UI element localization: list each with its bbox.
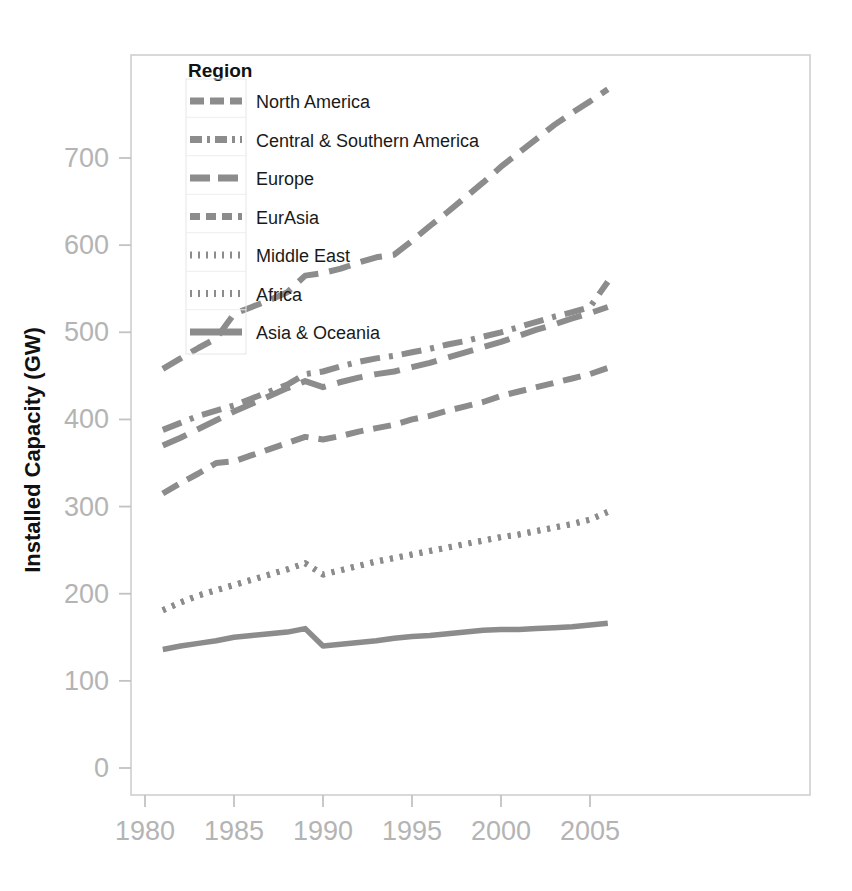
legend-item-central-southern-america[interactable]: Central & Southern America xyxy=(186,131,480,156)
y-tick-label: 500 xyxy=(64,317,109,347)
y-axis: 0100200300400500600700 xyxy=(64,143,131,783)
x-tick-label: 1995 xyxy=(382,816,442,846)
x-axis: 198019851990199520002005 xyxy=(115,795,620,846)
legend-label-central-southern-america: Central & Southern America xyxy=(256,131,480,151)
legend-item-eurasia[interactable]: EurAsia xyxy=(186,208,320,233)
y-tick-label: 600 xyxy=(64,230,109,260)
plot-frame xyxy=(131,55,810,795)
y-tick-label: 100 xyxy=(64,666,109,696)
x-tick-label: 1985 xyxy=(204,816,264,846)
x-tick-label: 2005 xyxy=(560,816,620,846)
series-line-middle-east xyxy=(163,512,608,611)
x-tick-label: 2000 xyxy=(471,816,531,846)
y-tick-label: 400 xyxy=(64,404,109,434)
x-tick-label: 1990 xyxy=(293,816,353,846)
line-chart: 0100200300400500600700 19801985199019952… xyxy=(0,0,852,891)
legend-item-europe[interactable]: Europe xyxy=(186,169,314,194)
legend-label-north-america: North America xyxy=(256,92,371,112)
series-line-africa xyxy=(163,512,608,611)
chart-figure: 0100200300400500600700 19801985199019952… xyxy=(0,0,852,891)
legend-label-asia-oceania: Asia & Oceania xyxy=(256,323,381,343)
y-axis-title: Installed Capacity (GW) xyxy=(20,327,45,573)
y-tick-label: 700 xyxy=(64,143,109,173)
y-tick-label: 200 xyxy=(64,579,109,609)
data-series-group xyxy=(163,89,608,649)
legend-label-europe: Europe xyxy=(256,169,314,189)
legend-items: North AmericaCentral & Southern AmericaE… xyxy=(186,79,480,354)
legend-label-africa: Africa xyxy=(256,285,303,305)
legend-title: Region xyxy=(188,60,252,81)
legend-item-middle-east[interactable]: Middle East xyxy=(186,246,350,271)
legend-item-north-america[interactable]: North America xyxy=(186,92,371,117)
legend-label-eurasia: EurAsia xyxy=(256,208,320,228)
series-line-asia-oceania xyxy=(163,623,608,649)
y-tick-label: 0 xyxy=(94,753,109,783)
series-line-eurasia xyxy=(163,368,608,494)
series-line-central-southern-america xyxy=(163,282,608,430)
legend-item-africa[interactable]: Africa xyxy=(186,285,303,310)
y-tick-label: 300 xyxy=(64,492,109,522)
chart-legend: Region North AmericaCentral & Southern A… xyxy=(186,60,480,354)
legend-label-middle-east: Middle East xyxy=(256,246,350,266)
legend-item-asia-oceania[interactable]: Asia & Oceania xyxy=(190,323,381,343)
x-tick-label: 1980 xyxy=(115,816,175,846)
